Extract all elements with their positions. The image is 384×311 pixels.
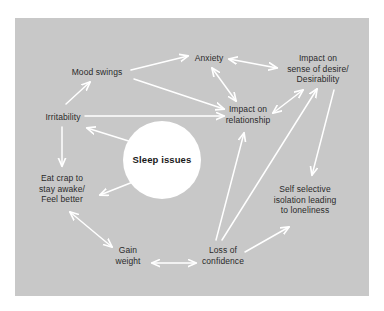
edge-loss-confidence-impact-relationship bbox=[216, 133, 244, 240]
node-eat-crap-to-stay-awake: Eat crap to stay awake/ Feel better bbox=[39, 173, 85, 205]
node-impact-on-sense-of-desire: Impact on sense of desire/ Desirability bbox=[287, 53, 349, 85]
node-irritability: Irritability bbox=[45, 112, 80, 123]
edge-anxiety-impact-relationship bbox=[212, 68, 236, 101]
node-mood-swings: Mood swings bbox=[72, 67, 123, 78]
edge-loss-confidence-self-isolation bbox=[245, 227, 289, 252]
edge-eat-crap-gain-weight bbox=[70, 212, 112, 247]
edge-mood-swings-impact-relationship bbox=[134, 79, 224, 109]
node-gain-weight: Gain weight bbox=[115, 245, 140, 266]
edge-sleep-issues-irritability bbox=[87, 128, 135, 143]
edge-irritability-mood-swings bbox=[66, 82, 90, 104]
node-loss-of-confidence: Loss of confidence bbox=[202, 245, 244, 266]
diagram-arrows bbox=[0, 0, 384, 311]
edge-anxiety-impact-desire bbox=[229, 59, 277, 68]
edge-impact-relationship-impact-desire bbox=[273, 90, 303, 113]
node-anxiety: Anxiety bbox=[195, 53, 224, 64]
diagram-canvas: Sleep issues Mood swings Anxiety Impact … bbox=[0, 0, 384, 311]
node-self-selective-isolation: Self selective isolation leading to lone… bbox=[274, 184, 337, 216]
node-impact-on-relationship: Impact on relationship bbox=[226, 104, 271, 125]
edge-mood-swings-anxiety bbox=[131, 56, 188, 70]
edge-impact-desire-self-isolation bbox=[312, 90, 334, 175]
node-sleep-issues: Sleep issues bbox=[133, 155, 192, 166]
